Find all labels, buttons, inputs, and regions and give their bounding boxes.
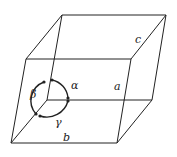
- label-c: c: [135, 33, 141, 46]
- edge-back-right: [152, 15, 166, 100]
- edge-connect-bottom-right: [117, 100, 152, 143]
- label-alpha: α: [71, 79, 79, 92]
- edge-front-right: [117, 59, 131, 143]
- edge-connect-bottom-left: [11, 100, 47, 143]
- label-b: b: [63, 131, 70, 144]
- arrowhead-icon: [42, 80, 45, 83]
- arrowhead-icon: [38, 114, 41, 117]
- arrowhead-icon: [66, 99, 69, 102]
- edge-connect-top-left: [26, 15, 62, 59]
- label-gamma: γ: [55, 116, 62, 129]
- arrowhead-icon: [66, 96, 69, 99]
- angle-alpha-arc: [52, 80, 68, 98]
- label-beta: β: [29, 88, 36, 101]
- unit-cell-diagram: α β γ a b c: [0, 0, 177, 157]
- arrowhead-icon: [50, 78, 53, 81]
- edge-front-left: [11, 59, 26, 143]
- arrowhead-icon: [34, 112, 37, 115]
- edge-back-left: [47, 15, 62, 100]
- label-a: a: [114, 80, 121, 93]
